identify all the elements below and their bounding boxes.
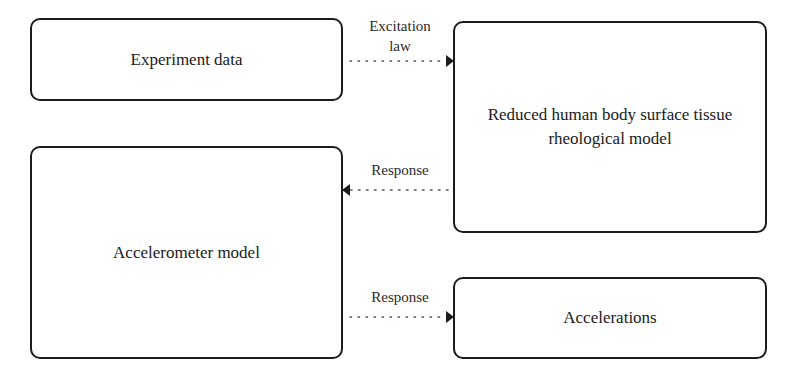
node-accelerometer-model: Accelerometer model (30, 146, 343, 359)
node-reduced-model: Reduced human body surface tissue rheolo… (453, 21, 767, 233)
edge-response-arrow-2 (350, 311, 454, 323)
node-label: Reduced human body surface tissue rheolo… (469, 103, 751, 151)
node-accelerations: Accelerations (453, 277, 767, 359)
edge-label-line: Excitation (355, 16, 445, 36)
node-label: Accelerometer model (113, 241, 260, 265)
node-experiment-data: Experiment data (30, 18, 343, 101)
edge-label-excitation: Excitation law (355, 16, 445, 56)
edge-label-response-2: Response (355, 287, 445, 307)
edge-label-response-1: Response (355, 160, 445, 180)
node-label: Accelerations (563, 306, 656, 330)
arrowhead-left-icon (342, 184, 350, 196)
node-label: Experiment data (131, 48, 243, 72)
edge-response-arrow-1 (342, 184, 448, 196)
edge-label-line: law (355, 36, 445, 56)
edge-excitation-arrow (350, 55, 454, 67)
